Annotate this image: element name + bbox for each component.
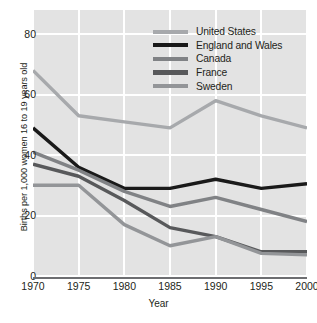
x-tick-label: 1985	[150, 281, 190, 292]
y-tick-label: 40	[10, 150, 36, 161]
legend-label-canada: Canada	[196, 53, 231, 64]
legend-swatch-sweden	[153, 84, 188, 88]
x-tick-label: 2000	[287, 281, 317, 292]
legend-label-france: France	[196, 67, 227, 78]
legend-label-sweden: Sweden	[196, 81, 232, 92]
legend-swatch-united-states	[153, 30, 188, 34]
x-axis-title: Year	[0, 298, 317, 309]
chart-figure: Births per 1,000 women 16 to 19 years ol…	[0, 0, 317, 323]
series-line-england-and-wales	[33, 128, 307, 188]
legend: United States England and Wales Canada F…	[153, 25, 282, 93]
x-axis-line	[33, 277, 307, 279]
legend-label-england-and-wales: England and Wales	[196, 40, 282, 51]
legend-item[interactable]: Sweden	[153, 79, 282, 93]
y-tick-label: 80	[10, 29, 36, 40]
legend-item[interactable]: England and Wales	[153, 39, 282, 53]
legend-swatch-england-and-wales	[153, 43, 188, 47]
x-tick-label: 1995	[241, 281, 281, 292]
y-tick-label: 20	[10, 210, 36, 221]
legend-item[interactable]: France	[153, 66, 282, 80]
legend-label-united-states: United States	[196, 26, 256, 37]
legend-item[interactable]: Canada	[153, 52, 282, 66]
x-tick-label: 1970	[13, 281, 53, 292]
x-tick-label: 1980	[104, 281, 144, 292]
y-axis-title: Births per 1,000 women 16 to 19 years ol…	[19, 27, 29, 267]
y-tick-label: 60	[10, 89, 36, 100]
legend-swatch-france	[153, 70, 188, 74]
x-tick-label: 1975	[59, 281, 99, 292]
legend-swatch-canada	[153, 57, 188, 61]
series-line-sweden	[33, 185, 307, 255]
x-tick-label: 1990	[196, 281, 236, 292]
legend-item[interactable]: United States	[153, 25, 282, 39]
